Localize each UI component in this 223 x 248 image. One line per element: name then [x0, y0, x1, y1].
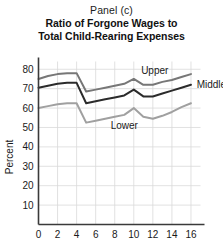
series-annotations: UpperMiddleLower — [111, 65, 223, 131]
y-tick-label: 40 — [22, 141, 34, 152]
series-annotation-upper: Upper — [141, 65, 169, 76]
x-tick-label: 0 — [36, 229, 42, 240]
y-tick-label: 50 — [22, 122, 34, 133]
y-tick-label: 10 — [22, 200, 34, 211]
chart-figure: Panel (c) Ratio of Forgone Wages to Tota… — [0, 0, 223, 248]
y-tick-label: 80 — [22, 64, 34, 75]
x-tick-label: 4 — [74, 229, 80, 240]
line-chart-plot: 80706050403020100246810121416Percent Upp… — [0, 0, 223, 248]
series-annotation-middle: Middle — [197, 79, 223, 90]
x-tick-label: 10 — [128, 229, 140, 240]
y-tick-label: 20 — [22, 180, 34, 191]
x-tick-label: 12 — [147, 229, 159, 240]
grid-lines — [39, 62, 201, 225]
y-tick-label: 70 — [22, 83, 34, 94]
x-tick-label: 16 — [185, 229, 197, 240]
x-tick-label: 14 — [166, 229, 178, 240]
x-tick-label: 2 — [55, 229, 61, 240]
x-tick-label: 8 — [112, 229, 118, 240]
series-annotation-lower: Lower — [111, 120, 139, 131]
y-axis-title: Percent — [4, 140, 15, 175]
tick-labels: 80706050403020100246810121416Percent — [4, 64, 197, 240]
y-tick-label: 60 — [22, 103, 34, 114]
x-tick-label: 6 — [93, 229, 99, 240]
y-tick-label: 30 — [22, 161, 34, 172]
